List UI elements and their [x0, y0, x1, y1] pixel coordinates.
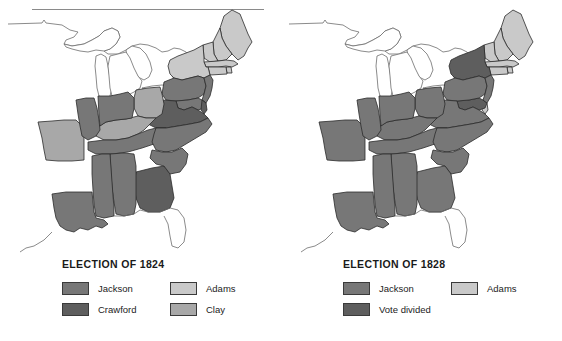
state-connecticut: [208, 67, 227, 75]
map-1824-geography: [8, 10, 252, 252]
map-1824: [0, 4, 281, 256]
legend-swatch-clay: [170, 303, 197, 316]
map-1828-geography: [289, 10, 533, 252]
state-new-york: [168, 45, 210, 80]
legend-item-jackson-1824: Jackson: [62, 282, 170, 295]
state-ohio: [415, 87, 445, 118]
legend-swatch-vote-divided: [343, 303, 370, 316]
legend-row: Vote divided: [343, 299, 558, 320]
map-1828: [281, 4, 562, 256]
legend-label-crawford: Crawford: [98, 304, 137, 315]
legend-1828: ELECTION OF 1828 Jackson Adams Vote: [281, 256, 562, 341]
state-ohio: [134, 87, 164, 118]
legend-row: Crawford Clay: [62, 299, 277, 320]
state-missouri: [319, 120, 365, 161]
state-pennsylvania: [162, 76, 206, 101]
gulf-coastline-west: [301, 232, 333, 252]
election-maps-figure: ELECTION OF 1824 Jackson Adams Crawf: [0, 0, 562, 341]
legend-swatch-jackson: [62, 282, 89, 295]
map-panel-1824: ELECTION OF 1824 Jackson Adams Crawf: [0, 0, 281, 341]
state-georgia: [134, 166, 174, 212]
legend-swatch-jackson: [343, 282, 370, 295]
legend-grid-1828: Jackson Adams Vote divided: [343, 278, 558, 320]
legend-label-jackson: Jackson: [98, 283, 133, 294]
legend-row: Jackson Adams: [62, 278, 277, 299]
lake-superior-outline: [64, 28, 120, 52]
legend-label-adams: Adams: [206, 283, 236, 294]
legend-swatch-adams: [451, 282, 478, 295]
legend-item-adams-1828: Adams: [451, 282, 556, 295]
map-panel-1828: ELECTION OF 1828 Jackson Adams Vote: [281, 0, 562, 341]
state-mississippi: [373, 154, 395, 218]
legend-label-vote-divided: Vote divided: [379, 304, 431, 315]
legend-grid-1824: Jackson Adams Crawford Clay: [62, 278, 277, 320]
state-mississippi: [92, 154, 114, 218]
state-pennsylvania: [443, 76, 487, 101]
legend-title-1828: ELECTION OF 1828: [343, 258, 445, 270]
legend-title-1824: ELECTION OF 1824: [62, 258, 164, 270]
legend-label-adams: Adams: [487, 283, 517, 294]
legend-swatch-crawford: [62, 303, 89, 316]
legend-item-adams-1824: Adams: [170, 282, 275, 295]
state-georgia: [415, 166, 455, 212]
state-new-york: [449, 45, 491, 80]
legend-item-vote-divided-1828: Vote divided: [343, 303, 451, 316]
legend-item-jackson-1828: Jackson: [343, 282, 451, 295]
legend-swatch-adams: [170, 282, 197, 295]
state-missouri: [38, 120, 84, 161]
legend-item-crawford-1824: Crawford: [62, 303, 170, 316]
lake-superior-outline: [345, 28, 401, 52]
legend-row: Jackson Adams: [343, 278, 558, 299]
state-connecticut: [489, 67, 508, 75]
legend-label-jackson: Jackson: [379, 283, 414, 294]
gulf-coastline-west: [20, 232, 52, 252]
legend-1824: ELECTION OF 1824 Jackson Adams Crawf: [0, 256, 281, 341]
legend-item-clay-1824: Clay: [170, 303, 275, 316]
legend-label-clay: Clay: [206, 304, 225, 315]
